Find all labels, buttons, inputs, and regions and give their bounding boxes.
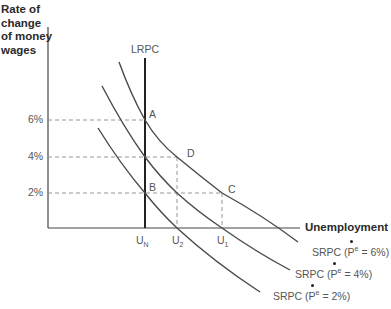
point-a-label: A xyxy=(149,108,156,120)
srpc-6-label: SRPC (Pe = 6%) xyxy=(312,245,389,258)
dot-icon xyxy=(333,262,336,265)
point-b-label: B xyxy=(149,181,156,193)
p-expected: Pe xyxy=(331,267,342,280)
y-axis-label-line: of money xyxy=(1,30,52,44)
dot-icon xyxy=(311,284,314,287)
srpc-tail: = 2%) xyxy=(320,290,351,302)
tick-4-percent: 4% xyxy=(28,150,43,162)
p-superscript: e xyxy=(316,289,320,296)
srpc-tail: = 4%) xyxy=(342,268,373,280)
dot-icon xyxy=(350,240,353,243)
tick-un-sub: N xyxy=(144,241,149,248)
y-axis-label-line: Rate of xyxy=(1,3,52,17)
srpc-2-label: SRPC (Pe = 2%) xyxy=(273,289,350,302)
p-superscript: e xyxy=(338,267,342,274)
tick-2-percent: 2% xyxy=(28,186,43,198)
tick-un: UN xyxy=(136,234,149,248)
srpc-2-curve xyxy=(98,128,260,292)
x-axis-label: Unemployment xyxy=(305,221,388,233)
dashed-guides xyxy=(48,120,222,228)
tick-u2: U2 xyxy=(172,234,184,248)
point-c-label: C xyxy=(228,183,236,195)
y-axis-label: Rate of change of money wages xyxy=(1,3,52,57)
point-d-label: D xyxy=(187,147,195,159)
p-letter: P xyxy=(348,246,355,258)
srpc-prefix: SRPC ( xyxy=(295,268,331,280)
srpc-4-curve xyxy=(102,86,290,270)
tick-u1: U1 xyxy=(217,234,229,248)
srpc-prefix: SRPC ( xyxy=(312,246,348,258)
lrpc-label: LRPC xyxy=(131,43,159,55)
srpc-tail: = 6%) xyxy=(359,246,390,258)
p-letter: P xyxy=(331,268,338,280)
tick-u1-main: U xyxy=(217,234,225,246)
tick-u2-sub: 2 xyxy=(180,241,184,248)
p-superscript: e xyxy=(355,245,359,252)
p-letter: P xyxy=(309,290,316,302)
srpc-4-label: SRPC (Pe = 4%) xyxy=(295,267,372,280)
tick-un-main: U xyxy=(136,234,144,246)
p-expected: Pe xyxy=(348,245,359,258)
y-axis-label-line: change xyxy=(1,17,52,31)
tick-u2-main: U xyxy=(172,234,180,246)
tick-6-percent: 6% xyxy=(28,113,43,125)
y-axis-label-line: wages xyxy=(1,44,52,58)
p-expected: Pe xyxy=(309,289,320,302)
tick-u1-sub: 1 xyxy=(225,241,229,248)
srpc-prefix: SRPC ( xyxy=(273,290,309,302)
